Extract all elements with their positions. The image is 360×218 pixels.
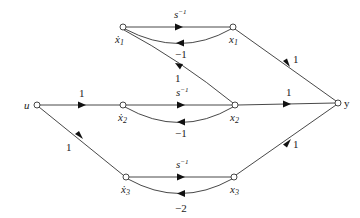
node-x2 <box>232 102 238 108</box>
label-x1: x1 <box>228 33 238 47</box>
gain-x1dot-x1: s−1 <box>174 8 187 20</box>
gain-x3-x3dot: −2 <box>175 202 187 214</box>
label-u: u <box>24 99 30 111</box>
arrow-x2-x2dot <box>177 119 185 126</box>
node-x3 <box>231 174 237 180</box>
node-x1dot <box>120 24 126 30</box>
node-u <box>34 102 40 108</box>
edge-x3-y <box>236 105 336 175</box>
arrow-x3-x3dot <box>177 190 185 197</box>
edge-x3-x3dot <box>128 179 232 194</box>
edge-x1-x1dot <box>125 29 231 44</box>
gain-x3dot-x3: s−1 <box>176 158 189 170</box>
node-y <box>335 100 341 106</box>
gain-x3-y: 1 <box>293 138 299 150</box>
gain-x2-y: 1 <box>286 86 292 98</box>
node-x2dot <box>120 102 126 108</box>
arrow-u-x2dot <box>78 102 86 109</box>
edge-u-x3dot <box>39 107 123 175</box>
gain-x2dot-x2: s−1 <box>176 86 189 98</box>
node-x3dot <box>123 174 129 180</box>
gain-u-x3dot: 1 <box>66 141 72 153</box>
gain-x1-y: 1 <box>293 53 299 65</box>
arrow-x2-y <box>283 101 291 108</box>
gain-x2-x1dot: 1 <box>175 72 181 84</box>
label-x1dot: ẋ1 <box>114 33 124 47</box>
arrow-x2dot-x2 <box>177 102 185 109</box>
label-y: y <box>344 97 350 109</box>
arrow-u-x3dot <box>75 131 83 139</box>
gain-x1-x1dot: −1 <box>175 48 187 60</box>
label-x2: x2 <box>229 111 239 125</box>
arrow-x1dot-x1 <box>175 24 183 31</box>
label-x3: x3 <box>229 183 239 197</box>
signal-flow-graph: u y ẋ1 x1 ẋ2 x2 ẋ3 x3 s−1 −1 1 1 1 s−1 −… <box>0 0 360 218</box>
arrow-x1-x1dot <box>176 40 184 47</box>
node-x1 <box>230 24 236 30</box>
arrow-x2-x1dot <box>175 63 183 70</box>
label-x2dot: ẋ2 <box>117 111 127 125</box>
gain-u-x2dot: 1 <box>79 87 85 99</box>
arrow-x3dot-x3 <box>177 174 185 181</box>
label-x3dot: ẋ3 <box>120 183 130 197</box>
edge-x2-x2dot <box>125 107 233 123</box>
gain-x2-x2dot: −1 <box>175 127 187 139</box>
arrow-x3-y <box>283 139 291 148</box>
